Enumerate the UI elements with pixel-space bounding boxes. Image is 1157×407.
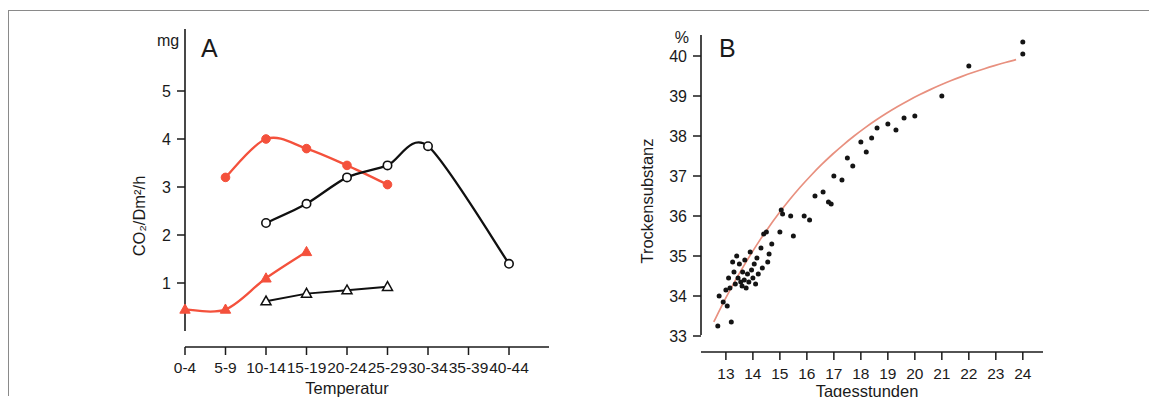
scatter-point	[746, 280, 751, 285]
scatter-point	[966, 64, 971, 69]
panel-b-xtick-19: 19	[879, 365, 896, 382]
panel-b-ytick-39: 39	[669, 88, 687, 105]
data-point-open-circle	[343, 173, 351, 181]
scatter-point	[721, 300, 726, 305]
scatter-point	[753, 282, 758, 287]
scatter-point	[939, 94, 944, 99]
panel-b-ytick-40: 40	[669, 48, 687, 65]
scatter-point	[831, 174, 836, 179]
panel-a-xtick-5: 25-29	[368, 359, 408, 376]
scatter-point	[717, 294, 722, 299]
panel-b-x-ticks	[726, 352, 1023, 360]
data-point-open-triangle	[383, 282, 393, 291]
panel-a-xtick-6: 30-34	[408, 359, 448, 376]
panel-b-xtick-21: 21	[933, 365, 950, 382]
panel-b-xtick-13: 13	[717, 365, 734, 382]
scatter-point	[745, 272, 750, 277]
panel-a-xtick-0: 0-4	[174, 359, 197, 376]
data-point-open-circle	[262, 219, 270, 227]
scatter-point	[769, 242, 774, 247]
scatter-point	[864, 150, 869, 155]
panel-b-xtick-23: 23	[987, 365, 1004, 382]
scatter-point	[767, 252, 772, 257]
scatter-point	[839, 178, 844, 183]
panel-a-series-group	[180, 135, 513, 314]
panel-a-letter: A	[201, 34, 218, 62]
panel-a-xtick-3: 15-19	[287, 359, 327, 376]
scatter-point	[893, 128, 898, 133]
panel-a-x-tick-labels: 0-4 5-9 10-14 15-19 20-24 25-29 30-34 35…	[174, 359, 529, 376]
panel-b-ytick-37: 37	[669, 168, 687, 185]
scatter-point	[715, 324, 720, 329]
panel-b-ytick-35: 35	[669, 248, 687, 265]
scatter-point	[1020, 52, 1025, 57]
scatter-point	[765, 260, 770, 265]
panel-b-xtick-16: 16	[798, 365, 815, 382]
scatter-point	[748, 250, 753, 255]
scatter-point	[850, 164, 855, 169]
scatter-point	[885, 122, 890, 127]
panel-b-xtick-24: 24	[1014, 365, 1032, 382]
panel-a-ytick-5: 5	[162, 83, 171, 100]
panel-a-x-ticks	[185, 347, 509, 355]
panel-b-ytick-33: 33	[669, 328, 687, 345]
panel-b-ytick-34: 34	[669, 288, 687, 305]
chart-panel-b: B % Trockensubstanz 40 39 38 37 36 35	[639, 11, 1079, 396]
scatter-point	[737, 262, 742, 267]
panel-b-xtick-18: 18	[852, 365, 869, 382]
scatter-point	[727, 286, 732, 291]
scatter-point	[802, 214, 807, 219]
panel-b-letter: B	[719, 34, 736, 62]
data-point-red-circle	[383, 180, 392, 189]
panel-a-ytick-4: 4	[162, 131, 171, 148]
scatter-point	[742, 258, 747, 263]
scatter-point	[812, 194, 817, 199]
panel-b-y-axis-title: Trockensubstanz	[639, 138, 656, 263]
scatter-point	[725, 304, 730, 309]
panel-a-xtick-7: 35-39	[449, 359, 489, 376]
panel-b-ytick-38: 38	[669, 128, 687, 145]
panel-a-y-axis-title: CO₂/Dm²/h	[130, 176, 148, 257]
scatter-point	[758, 246, 763, 251]
series-black-lower-line	[266, 287, 388, 301]
scatter-point	[740, 270, 745, 275]
scatter-points-group	[715, 40, 1025, 329]
scatter-point	[858, 140, 863, 145]
scatter-point	[760, 266, 765, 271]
scatter-point	[731, 270, 736, 275]
scatter-point	[733, 282, 738, 287]
data-point-red-circle	[302, 144, 311, 153]
scatter-point	[729, 320, 734, 325]
scatter-point	[788, 214, 793, 219]
panel-a-ytick-1: 1	[162, 275, 171, 292]
data-point-open-circle	[424, 142, 432, 150]
series-red-lower-line	[185, 252, 307, 312]
scatter-point	[750, 276, 755, 281]
scatter-point	[744, 286, 749, 291]
panel-a-xtick-1: 5-9	[214, 359, 236, 376]
data-point-open-circle	[505, 260, 513, 268]
scatter-point	[912, 114, 917, 119]
data-point-red-circle	[262, 135, 271, 144]
scatter-point	[752, 262, 757, 267]
panel-b-xtick-22: 22	[960, 365, 977, 382]
scatter-point	[845, 156, 850, 161]
scatter-point	[875, 126, 880, 131]
scatter-point	[780, 212, 785, 217]
regression-fit-curve	[714, 60, 1016, 322]
panel-b-y-unit: %	[675, 29, 689, 46]
scatter-point	[734, 254, 739, 259]
panel-b-xtick-17: 17	[825, 365, 842, 382]
panel-b-x-axis-title: Tagesstunden	[816, 382, 919, 397]
panel-a-xtick-2: 10-14	[246, 359, 286, 376]
chart-panel-a: A mg CO₂/Dm²/h 5 4 3 2 1	[129, 11, 599, 396]
panel-a-y-ticks: 5 4 3 2 1	[162, 83, 185, 292]
scatter-point	[754, 256, 759, 261]
scatter-point	[764, 230, 769, 235]
panel-b-y-ticks: 40 39 38 37 36 35 34 33	[669, 48, 701, 345]
panel-b-xtick-14: 14	[744, 365, 762, 382]
scatter-point	[902, 116, 907, 121]
data-point-red-triangle	[261, 273, 271, 282]
scatter-point	[730, 260, 735, 265]
scatter-point	[777, 230, 782, 235]
